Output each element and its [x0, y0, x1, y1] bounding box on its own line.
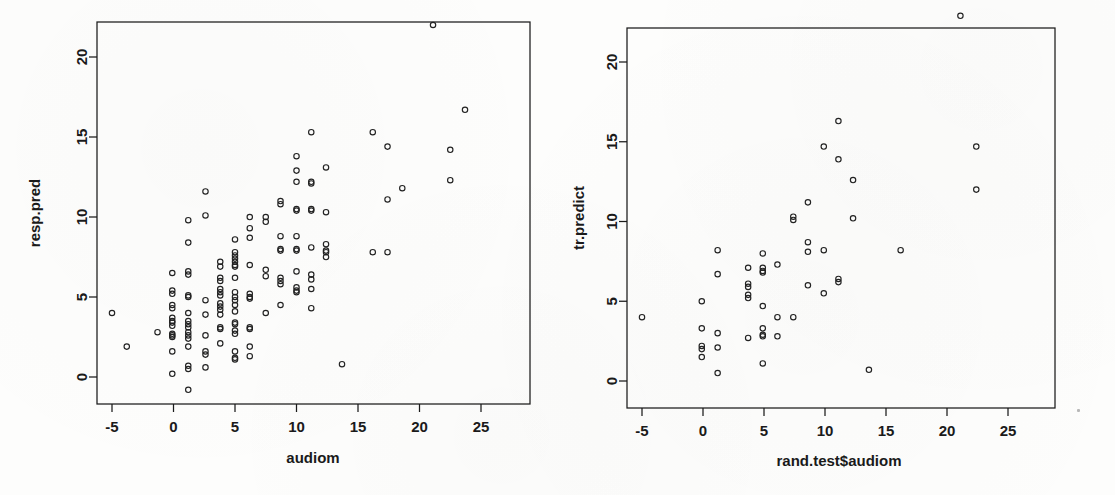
plot-frame — [627, 28, 1055, 408]
x-axis-title: rand.test$audiom — [776, 452, 901, 469]
data-point — [974, 187, 979, 192]
data-point — [186, 344, 191, 349]
x-axis-tick-label: 5 — [231, 418, 239, 435]
data-point — [805, 283, 810, 288]
x-axis-tick-label: 10 — [817, 422, 834, 439]
y-axis-tick-label: 5 — [603, 297, 620, 305]
data-point — [850, 216, 855, 221]
data-point — [294, 168, 299, 173]
x-axis-tick-label: -5 — [635, 422, 648, 439]
data-point — [109, 310, 114, 315]
data-point — [430, 22, 435, 27]
scan-artifact-speck — [1077, 409, 1080, 412]
data-point — [294, 179, 299, 184]
data-point — [745, 265, 750, 270]
data-point — [155, 330, 160, 335]
y-axis-tick-label: 5 — [73, 293, 90, 301]
data-point — [760, 251, 765, 256]
data-point-group — [109, 22, 467, 392]
data-point — [203, 298, 208, 303]
x-axis-tick-label: -5 — [105, 418, 118, 435]
data-point — [715, 330, 720, 335]
data-point — [263, 274, 268, 279]
y-axis-tick-label: 20 — [603, 54, 620, 71]
data-point — [247, 214, 252, 219]
data-point-group — [639, 13, 979, 376]
data-point — [462, 107, 467, 112]
data-point — [203, 333, 208, 338]
data-point — [309, 130, 314, 135]
data-point — [775, 334, 780, 339]
data-point — [263, 310, 268, 315]
data-point — [639, 315, 644, 320]
x-axis-tick-label: 15 — [350, 418, 367, 435]
data-point — [186, 387, 191, 392]
data-point — [218, 341, 223, 346]
figure-page: -5051015202505101520resp.predaudiom -505… — [0, 0, 1115, 495]
data-point — [699, 354, 704, 359]
data-point — [791, 315, 796, 320]
x-axis-title: audiom — [286, 449, 339, 466]
data-point — [805, 249, 810, 254]
data-point — [278, 302, 283, 307]
x-axis-tick-label: 0 — [699, 422, 707, 439]
data-point — [805, 200, 810, 205]
x-axis-tick-label: 25 — [473, 418, 490, 435]
data-point — [715, 271, 720, 276]
y-axis-tick-label: 15 — [603, 133, 620, 150]
data-point — [821, 291, 826, 296]
data-point — [760, 303, 765, 308]
data-point — [836, 118, 841, 123]
data-point — [247, 235, 252, 240]
data-point — [247, 262, 252, 267]
data-point — [294, 269, 299, 274]
scatter-panel-right: -5051015202505101520tr.predictrand.test$… — [558, 0, 1115, 495]
data-point — [170, 270, 175, 275]
data-point — [339, 362, 344, 367]
data-point — [760, 326, 765, 331]
data-point — [699, 299, 704, 304]
data-point — [866, 367, 871, 372]
data-point — [699, 326, 704, 331]
x-axis-tick-label: 0 — [169, 418, 177, 435]
data-point — [170, 371, 175, 376]
data-point — [760, 361, 765, 366]
data-point — [309, 286, 314, 291]
data-point — [958, 13, 963, 18]
x-axis-tick-label: 10 — [288, 418, 305, 435]
data-point — [186, 310, 191, 315]
data-point — [247, 226, 252, 231]
data-point — [448, 178, 453, 183]
data-point — [309, 245, 314, 250]
y-axis-tick-label: 0 — [603, 377, 620, 385]
data-point — [203, 213, 208, 218]
x-axis-tick-label: 25 — [1000, 422, 1017, 439]
y-axis-tick-label: 10 — [603, 213, 620, 230]
data-point — [385, 197, 390, 202]
data-point — [385, 250, 390, 255]
data-point — [448, 147, 453, 152]
data-point — [715, 370, 720, 375]
data-point — [232, 349, 237, 354]
data-point — [247, 344, 252, 349]
data-point — [294, 154, 299, 159]
data-point — [821, 144, 826, 149]
data-point — [821, 248, 826, 253]
data-point — [898, 248, 903, 253]
plot-frame — [97, 22, 530, 404]
y-axis-tick-label: 20 — [73, 49, 90, 66]
data-point — [263, 267, 268, 272]
data-point — [400, 186, 405, 191]
data-point — [186, 218, 191, 223]
data-point — [385, 144, 390, 149]
scatter-panel-left: -5051015202505101520resp.predaudiom — [0, 0, 558, 495]
data-point — [715, 248, 720, 253]
data-point — [232, 275, 237, 280]
data-point — [974, 144, 979, 149]
data-point — [836, 157, 841, 162]
data-point — [186, 240, 191, 245]
data-point — [232, 237, 237, 242]
x-axis-tick-label: 20 — [939, 422, 956, 439]
data-point — [278, 234, 283, 239]
data-point — [323, 210, 328, 215]
